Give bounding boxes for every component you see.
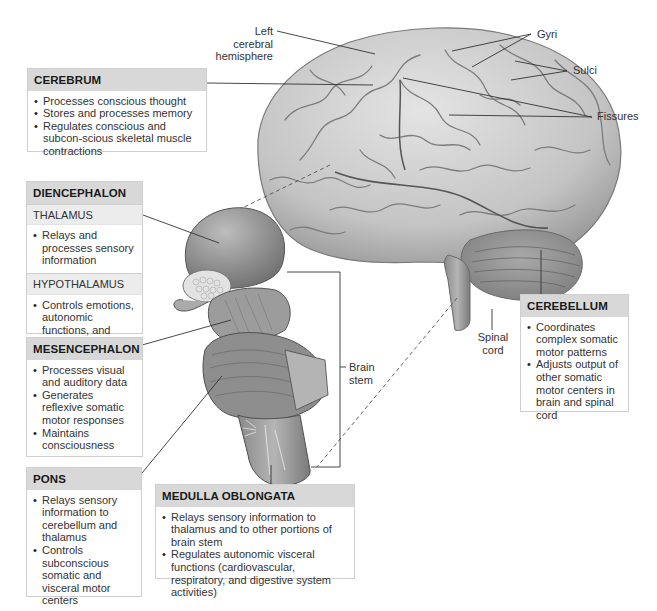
cerebrum-illustration [258, 28, 621, 263]
medulla-oblongata-item: Relays sensory information to thalamus a… [162, 511, 348, 549]
diencephalon-box: DIENCEPHALON THALAMUS Relays and process… [26, 181, 143, 334]
diencephalon-title: DIENCEPHALON [27, 182, 142, 204]
cerebrum-item: Regulates conscious and subcon-scious sk… [34, 120, 200, 158]
label-sulci: Sulci [573, 64, 597, 77]
cerebrum-item: Processes conscious thought [34, 95, 200, 108]
hypothalamus-title: HYPOTHALAMUS [27, 273, 142, 295]
cerebrum-box: CEREBRUM Processes conscious thought Sto… [27, 68, 207, 152]
cerebellum-box: CEREBELLUM Coordinates complex somatic m… [520, 294, 629, 412]
mesencephalon-item: Processes visual and auditory data [33, 364, 136, 389]
mesencephalon-item: Generates reflexive somatic motor respon… [33, 389, 136, 427]
cerebrum-item: Stores and processes memory [34, 107, 200, 120]
medulla-oblongata-box: MEDULLA OBLONGATA Relays sensory informa… [155, 484, 355, 579]
cerebellum-item: Adjusts output of other somatic motor ce… [527, 358, 622, 421]
label-brain-stem: Brain stem [349, 361, 375, 386]
cerebrum-list: Processes conscious thought Stores and p… [28, 91, 206, 164]
thalamus-item: Relays and processes sensory information [33, 229, 136, 267]
medulla-oblongata-title: MEDULLA OBLONGATA [156, 485, 354, 507]
thalamus-list: Relays and processes sensory information [27, 225, 142, 273]
cerebellum-illustration [461, 230, 582, 301]
label-left-cerebral-hemisphere: Left cerebral hemisphere [213, 25, 273, 63]
pons-box: PONS Relays sensory information to cereb… [26, 467, 142, 597]
label-gyri: Gyri [537, 28, 557, 41]
mesencephalon-title: MESENCEPHALON [27, 338, 142, 360]
medulla-oblongata-list: Relays sensory information to thalamus a… [156, 507, 354, 605]
mesencephalon-box: MESENCEPHALON Processes visual and audit… [26, 337, 143, 457]
medulla-oblongata-item: Regulates autonomic visceral functions (… [162, 548, 348, 598]
brainstem-illustration [174, 208, 328, 486]
label-fissures: Fissures [597, 110, 639, 123]
thalamus-title: THALAMUS [27, 204, 142, 226]
cerebellum-item: Coordinates complex somatic motor patter… [527, 321, 622, 359]
mesencephalon-item: Maintains consciousness [33, 427, 136, 452]
mesencephalon-list: Processes visual and auditory data Gener… [27, 360, 142, 458]
cerebellum-title: CEREBELLUM [521, 295, 628, 317]
cerebellum-list: Coordinates complex somatic motor patter… [521, 317, 628, 428]
spinal-cord-illustration [445, 255, 470, 331]
pons-title: PONS [27, 468, 141, 490]
pons-item: Relays sensory information to cerebellum… [33, 494, 135, 544]
pons-item: Controls subconscious somatic and viscer… [33, 544, 135, 607]
pons-list: Relays sensory information to cerebellum… [27, 490, 141, 611]
cerebrum-title: CEREBRUM [28, 69, 206, 91]
label-spinal-cord: Spinal cord [474, 331, 512, 356]
